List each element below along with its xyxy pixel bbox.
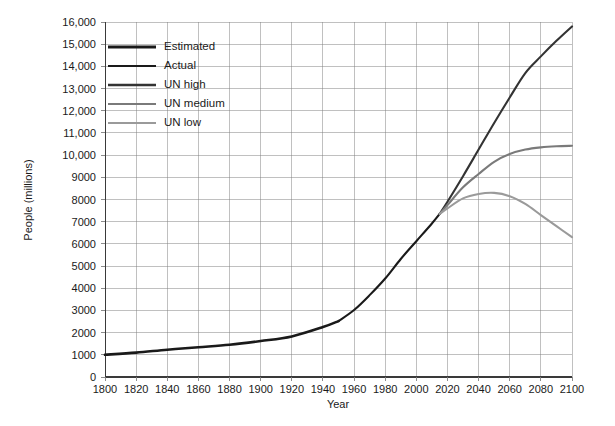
- legend-label-un-medium: UN medium: [164, 97, 225, 109]
- series-line-un-high: [440, 26, 572, 213]
- legend-label-estimated: Estimated: [164, 40, 215, 52]
- y-tick-label: 8000: [72, 194, 96, 206]
- x-tick-label: 2000: [404, 383, 428, 395]
- x-tick-label: 1820: [124, 383, 148, 395]
- chart-legend: EstimatedActualUN highUN mediumUN low: [108, 40, 225, 128]
- y-tick-label: 6000: [72, 238, 96, 250]
- population-projection-chart: 010002000300040005000600070008000900010,…: [0, 0, 615, 426]
- x-tick-label: 2100: [560, 383, 584, 395]
- y-tick-label: 14,000: [62, 60, 96, 72]
- y-tick-label: 11,000: [63, 127, 96, 139]
- x-tick-label: 1960: [342, 383, 366, 395]
- y-tick-label: 16,000: [62, 16, 96, 28]
- x-tick-label: 2060: [497, 383, 521, 395]
- y-tick-label: 15,000: [62, 38, 96, 50]
- series-line-un-medium: [440, 146, 572, 214]
- y-tick-label: 13,000: [62, 83, 96, 95]
- y-tick-label: 10,000: [62, 149, 96, 161]
- legend-label-un-high: UN high: [164, 78, 206, 90]
- y-tick-label: 1000: [72, 349, 96, 361]
- y-tick-label: 2000: [72, 327, 96, 339]
- y-tick-label: 9000: [72, 171, 96, 183]
- y-tick-label: 4000: [72, 282, 96, 294]
- x-axis-title: Year: [327, 398, 350, 410]
- y-tick-label: 0: [90, 371, 96, 383]
- series-line-estimated: [105, 321, 339, 355]
- population-chart-figure: 010002000300040005000600070008000900010,…: [0, 0, 615, 426]
- data-series-layer: [105, 26, 572, 354]
- x-tick-label: 1920: [280, 383, 304, 395]
- y-tick-label: 7000: [72, 216, 96, 228]
- x-tick-label: 1840: [155, 383, 179, 395]
- x-tick-label: 1880: [217, 383, 241, 395]
- y-axis-title: People (millions): [22, 159, 34, 240]
- x-tick-label: 2040: [466, 383, 490, 395]
- y-tick-label: 12,000: [62, 105, 96, 117]
- x-tick-label: 1980: [373, 383, 397, 395]
- legend-label-un-low: UN low: [164, 116, 202, 128]
- y-tick-label: 3000: [72, 304, 96, 316]
- grid-layer: [105, 22, 572, 377]
- x-tick-label: 2020: [435, 383, 459, 395]
- x-tick-label: 1800: [93, 383, 117, 395]
- x-tick-label: 1860: [186, 383, 210, 395]
- x-tick-label: 1940: [311, 383, 335, 395]
- x-tick-label: 1900: [248, 383, 272, 395]
- y-axis-tick-labels: 010002000300040005000600070008000900010,…: [62, 16, 105, 383]
- legend-label-actual: Actual: [164, 59, 196, 71]
- y-tick-label: 5000: [72, 260, 96, 272]
- x-tick-label: 2080: [529, 383, 553, 395]
- x-axis-tick-labels: 1800182018401860188019001920194019601980…: [93, 377, 584, 395]
